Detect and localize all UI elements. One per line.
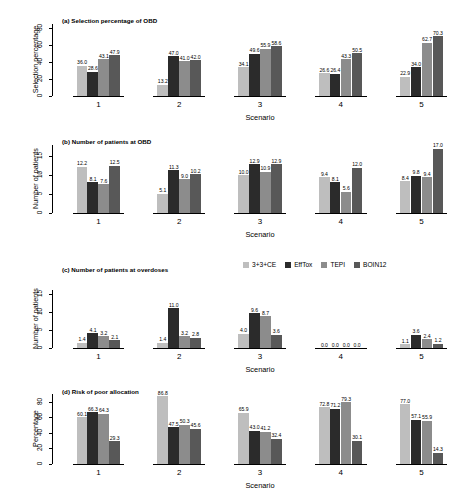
x-tick-label: 5 [407, 352, 437, 361]
group-baseline [396, 96, 448, 97]
bar [109, 441, 120, 464]
x-tick-label: 4 [326, 352, 356, 361]
group-baseline [396, 464, 448, 465]
bar-value-label: 45.6 [186, 422, 205, 428]
bar-value-label: 11.0 [164, 302, 183, 308]
bar-value-label: 2.1 [105, 334, 124, 340]
bar-value-label: 30.1 [348, 434, 367, 440]
bar-value-label: 47.9 [105, 49, 124, 55]
bar [260, 49, 271, 96]
y-tick-mark [49, 402, 52, 403]
bar [168, 56, 179, 96]
bar [352, 441, 363, 464]
bar-value-label: 0.0 [348, 342, 367, 348]
bar [330, 409, 341, 464]
bar [271, 335, 282, 348]
bar-value-label: 70.3 [429, 30, 448, 36]
bar-value-label: 2.8 [186, 331, 205, 337]
bar-value-label: 50.5 [348, 47, 367, 53]
bar [98, 59, 109, 96]
bar [238, 413, 249, 464]
group-baseline [73, 348, 125, 349]
bar [260, 172, 271, 213]
y-tick-mark [49, 156, 52, 157]
y-tick-mark [49, 417, 52, 418]
group-baseline [315, 348, 367, 349]
bar-value-label: 41.2 [256, 425, 275, 431]
bar [319, 177, 330, 213]
panel-title-a: (a) Selection percentage of OBD [62, 17, 157, 24]
bar [352, 53, 363, 96]
x-axis-label-c: Scenario [200, 365, 320, 374]
y-axis-line-c [52, 290, 53, 348]
bar [433, 149, 444, 213]
bar [190, 429, 201, 464]
legend-label: 3+3+CE [252, 261, 276, 268]
x-tick-label: 1 [83, 217, 113, 226]
x-tick-label: 2 [164, 217, 194, 226]
x-tick-label: 3 [245, 468, 275, 477]
bar-value-label: 11.3 [164, 164, 183, 170]
panel-title-c: (c) Number of patients at overdoses [62, 266, 168, 273]
bar [238, 67, 249, 96]
y-axis-line-d [52, 394, 53, 464]
bar-value-label: 12.9 [267, 158, 286, 164]
x-tick-label: 4 [326, 217, 356, 226]
group-baseline [396, 213, 448, 214]
x-axis-label-b: Scenario [200, 230, 320, 239]
bar [422, 43, 433, 96]
y-axis-label-c: Number of patients [31, 275, 40, 363]
bar [249, 313, 260, 348]
bar-value-label: 42.0 [186, 54, 205, 60]
y-tick-mark [49, 194, 52, 195]
y-axis-label-a: Selection percentage [31, 9, 40, 111]
y-tick-mark [49, 433, 52, 434]
x-tick-label: 4 [326, 468, 356, 477]
group-baseline [73, 213, 125, 214]
bar [400, 181, 411, 213]
bar-value-label: 32.4 [267, 432, 286, 438]
x-tick-label: 5 [407, 100, 437, 109]
bar [179, 179, 190, 213]
bar [433, 453, 444, 464]
bar-value-label: 10.2 [186, 168, 205, 174]
bar-value-label: 1.2 [429, 337, 448, 343]
y-tick-mark [49, 294, 52, 295]
bar [400, 344, 411, 348]
y-tick-mark [49, 330, 52, 331]
group-baseline [153, 348, 205, 349]
bar-value-label: 55.9 [418, 414, 437, 420]
bar [249, 431, 260, 464]
group-baseline [315, 213, 367, 214]
bar [238, 334, 249, 349]
legend-item-3-3-ce: 3+3+CE [243, 261, 276, 268]
bar-value-label: 12.2 [73, 160, 92, 166]
bar [157, 85, 168, 96]
y-tick-mark [49, 464, 52, 465]
bar [411, 420, 422, 464]
group-baseline [315, 96, 367, 97]
bar-value-label: 65.9 [234, 406, 253, 412]
bar [341, 59, 352, 96]
bar [87, 412, 98, 464]
bar [411, 176, 422, 213]
figure-root: (a) Selection percentage of OBD020406080… [0, 0, 470, 494]
bar [433, 344, 444, 348]
bar [77, 343, 88, 348]
bar [341, 192, 352, 213]
x-tick-label: 2 [164, 468, 194, 477]
bar [77, 167, 88, 213]
y-axis-label-b: Number of patients [31, 130, 40, 228]
bar [238, 175, 249, 213]
group-baseline [153, 464, 205, 465]
group-baseline [234, 96, 286, 97]
bar-value-label: 64.3 [94, 407, 113, 413]
bar [109, 340, 120, 348]
bar [422, 421, 433, 464]
bar-value-label: 12.0 [348, 161, 367, 167]
x-tick-label: 1 [83, 352, 113, 361]
bar [319, 73, 330, 96]
bar [98, 184, 109, 213]
group-baseline [234, 213, 286, 214]
legend-item-efftox: EffTox [285, 261, 312, 268]
